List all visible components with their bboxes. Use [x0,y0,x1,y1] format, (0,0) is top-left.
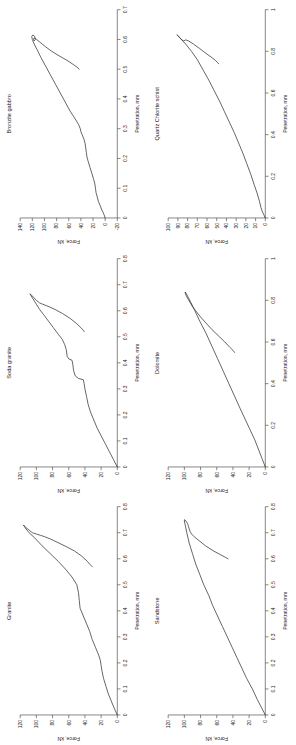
x-tick-label: 0 [122,713,128,716]
x-tick-label: 0.8 [270,296,276,303]
y-tick-label: 100 [41,223,47,232]
y-tick-label: 120 [29,223,35,232]
y-tick-label: 40 [82,720,88,726]
x-tick-label: 0.8 [270,503,276,510]
y-tick-label: 50 [213,223,219,229]
y-tick-label: 20 [242,223,248,229]
y-tick-label: 120 [17,471,23,480]
y-tick-label: 120 [164,720,170,729]
x-tick-label: 0.7 [122,6,128,13]
x-tick-label: 0.6 [270,338,276,345]
x-tick-label: 0.2 [270,421,276,428]
x-axis-label: Penetration, mm [134,592,140,630]
y-tick-label: 80 [184,223,190,229]
x-tick-label: 0.6 [270,555,276,562]
y-tick-label: 0 [102,223,108,226]
x-tick-label: 0.7 [270,529,276,536]
y-tick-label: 80 [49,720,55,726]
x-tick-label: 0.3 [122,385,128,392]
x-tick-label: 0.1 [122,437,128,444]
panel-granite: Granite00.10.20.30.40.50.60.70.8Penetrat… [0,497,148,745]
x-tick-label: 0.2 [270,173,276,180]
x-tick-label: 0.8 [122,503,128,510]
figure-root: Granite00.10.20.30.40.50.60.70.8Penetrat… [0,0,295,745]
x-tick-label: 0.8 [122,255,128,262]
y-tick-label: 0 [262,720,268,723]
y-tick-label: 0 [262,471,268,474]
figure-stage: Granite00.10.20.30.40.50.60.70.8Penetrat… [0,0,295,745]
x-tick-label: 0 [270,465,276,468]
y-axis-label: Force, kN [205,488,228,494]
y-tick-label: 30 [232,223,238,229]
y-axis-label: Force, kN [57,736,80,742]
data-curve [185,292,265,467]
x-tick-label: 1 [270,8,276,11]
x-tick-label: 0.4 [122,607,128,614]
x-tick-label: 0.7 [122,529,128,536]
data-curve [176,35,264,218]
x-tick-label: 0 [270,713,276,716]
x-tick-label: 0.6 [270,90,276,97]
y-tick-label: 10 [252,223,258,229]
x-axis-label: Penetration, mm [282,95,288,133]
y-tick-label: 100 [181,471,187,480]
data-curve [23,525,117,715]
y-tick-label: 40 [82,471,88,477]
y-tick-label: 100 [33,471,39,480]
y-axis-label: Force, kN [57,239,80,245]
x-tick-label: 0.3 [122,633,128,640]
y-tick-label: 120 [17,720,23,729]
panel-title: Dolomite [154,351,160,373]
x-tick-label: 0.4 [270,131,276,138]
y-tick-label: 40 [229,720,235,726]
y-tick-label: 90 [174,223,180,229]
x-tick-label: 0.1 [122,185,128,192]
y-tick-label: 140 [17,223,23,232]
x-tick-label: 0.2 [270,659,276,666]
x-tick-label: 0 [122,217,128,220]
y-tick-label: 80 [197,471,203,477]
y-tick-label: 80 [53,223,59,229]
x-tick-label: 0.5 [122,66,128,73]
y-tick-label: 100 [164,223,170,232]
data-curve [32,35,105,218]
x-tick-label: 0.3 [270,633,276,640]
y-tick-label: 60 [203,223,209,229]
x-tick-label: 0.1 [122,685,128,692]
y-tick-label: 20 [98,471,104,477]
y-tick-label: 100 [181,720,187,729]
x-tick-label: 0.2 [122,411,128,418]
x-tick-label: 0.6 [122,36,128,43]
y-tick-label: 20 [98,720,104,726]
y-tick-label: 60 [66,223,72,229]
x-tick-label: 0.5 [270,581,276,588]
x-axis-label: Penetration, mm [134,343,140,381]
x-tick-label: 0.2 [122,155,128,162]
data-curve [30,294,117,467]
y-axis-label: Force, kN [57,488,80,494]
y-tick-label: 60 [66,471,72,477]
y-axis-label: Force, kN [205,736,228,742]
x-tick-label: 0.1 [270,685,276,692]
x-tick-label: 0.8 [270,48,276,55]
panel-bronzite-gabbro: Bronzite gabbro00.10.20.30.40.50.60.7Pen… [0,0,148,248]
y-tick-label: 40 [223,223,229,229]
x-tick-label: 0.3 [122,125,128,132]
panel-dolomite: Dolomite00.20.40.60.81Penetration, mm020… [148,248,296,496]
x-axis-label: Penetration, mm [134,95,140,133]
x-tick-label: 0.4 [270,380,276,387]
panel-quartz-chlorite-schist: Quartz Chlorite schist00.20.40.60.81Pene… [148,0,296,248]
x-tick-label: 1 [270,257,276,260]
x-tick-label: 0.6 [122,555,128,562]
panel-sandstone: Sandstone00.10.20.30.40.50.60.70.8Penetr… [148,497,296,745]
x-tick-label: 0.6 [122,307,128,314]
panel-soda-granite: Soda granite00.10.20.30.40.50.60.70.8Pen… [0,248,148,496]
y-tick-label: 20 [90,223,96,229]
data-curve [184,520,265,715]
y-tick-label: 70 [194,223,200,229]
x-tick-label: 0.5 [122,581,128,588]
y-tick-label: 20 [245,471,251,477]
y-tick-label: 60 [213,471,219,477]
x-axis-label: Penetration, mm [282,592,288,630]
panel-grid: Granite00.10.20.30.40.50.60.70.8Penetrat… [0,0,295,745]
